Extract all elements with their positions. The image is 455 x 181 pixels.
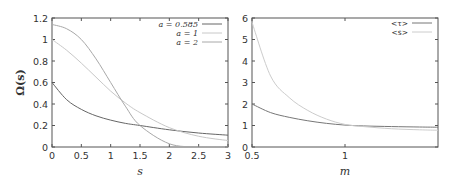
y-tick-label: 5 xyxy=(242,34,248,45)
legend-label: a = 1 xyxy=(176,29,198,38)
x-tick-label: 0 xyxy=(49,150,55,161)
x-tick-label: 0.5 xyxy=(74,150,89,161)
x-tick-label: 1 xyxy=(342,150,348,161)
y-tick-label: 6 xyxy=(242,13,248,24)
x-tick-label: 3 xyxy=(225,150,231,161)
right-plot: 01234560.51m<τ><s> xyxy=(242,13,438,179)
x-tick-label: 1 xyxy=(108,150,114,161)
y-tick-label: 4 xyxy=(242,56,248,67)
y-axis-label: Ω(s) xyxy=(14,69,27,95)
legend-label: a = 0.585 xyxy=(159,20,198,29)
y-tick-label: 0.4 xyxy=(33,99,48,110)
legend-label: <τ> xyxy=(391,19,408,28)
legend-label: a = 2 xyxy=(176,38,198,47)
y-tick-label: 1 xyxy=(242,120,248,131)
series-line xyxy=(252,22,438,130)
series-line xyxy=(52,83,228,136)
y-tick-label: 3 xyxy=(242,77,248,88)
y-tick-label: 1 xyxy=(42,34,48,45)
x-tick-label: 1.5 xyxy=(132,150,147,161)
left-plot: 00.20.40.60.811.200.511.522.53sΩ(s)a = 0… xyxy=(14,13,231,179)
x-tick-label: 0.5 xyxy=(244,150,259,161)
x-axis-label: m xyxy=(340,165,350,178)
plot-frame xyxy=(252,18,438,147)
legend-label: <s> xyxy=(392,28,408,37)
y-tick-label: 0 xyxy=(42,142,48,153)
y-tick-label: 0.8 xyxy=(33,56,48,67)
y-tick-label: 0.6 xyxy=(33,77,48,88)
chart-figure: 00.20.40.60.811.200.511.522.53sΩ(s)a = 0… xyxy=(0,0,455,181)
x-tick-label: 2 xyxy=(166,150,172,161)
series-line xyxy=(252,104,438,127)
series-line xyxy=(52,24,228,147)
y-tick-label: 2 xyxy=(242,99,248,110)
y-tick-label: 1.2 xyxy=(33,13,48,24)
y-tick-label: 0.2 xyxy=(33,120,48,131)
x-tick-label: 2.5 xyxy=(191,150,206,161)
x-axis-label: s xyxy=(137,165,143,178)
